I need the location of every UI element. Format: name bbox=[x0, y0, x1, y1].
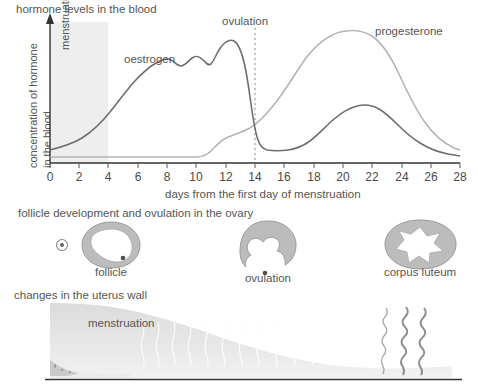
x-tick-label: 10 bbox=[189, 170, 202, 184]
uterus-menstruation-label: menstruation bbox=[88, 318, 154, 330]
x-tick-label: 24 bbox=[395, 170, 408, 184]
x-tick-label: 14 bbox=[248, 170, 261, 184]
figure-root: hormone levels in the blood concentratio… bbox=[0, 0, 478, 390]
corpus-luteum-diagram bbox=[385, 220, 456, 269]
x-tick-label: 26 bbox=[424, 170, 437, 184]
x-tick-label: 22 bbox=[365, 170, 378, 184]
x-axis-label: days from the first day of menstruation bbox=[165, 189, 361, 201]
x-tick-label: 2 bbox=[76, 170, 83, 184]
menstruation-band-label: menstruation bbox=[60, 0, 71, 50]
x-tick-label: 12 bbox=[219, 170, 232, 184]
endometrium-layer bbox=[50, 303, 452, 378]
ovulation-caption: ovulation bbox=[245, 272, 291, 284]
ovulation-marker-label: ovulation bbox=[222, 16, 268, 28]
x-axis-ticks bbox=[50, 163, 460, 168]
x-tick-label: 6 bbox=[135, 170, 142, 184]
y-axis-arrow-icon bbox=[46, 13, 54, 24]
progesterone-series-label: progesterone bbox=[375, 26, 443, 38]
x-tick-label: 16 bbox=[277, 170, 290, 184]
corpus-luteum-caption: corpus luteum bbox=[384, 266, 456, 278]
ovary-diagrams-svg bbox=[0, 218, 478, 298]
follicle-diagram bbox=[82, 222, 140, 268]
x-tick-label: 18 bbox=[307, 170, 320, 184]
x-tick-label: 28 bbox=[453, 170, 466, 184]
x-tick-label: 20 bbox=[336, 170, 349, 184]
follicle-egg-dot-icon bbox=[121, 256, 126, 261]
ovulation-diagram bbox=[240, 221, 296, 275]
uterus-wall-svg bbox=[0, 300, 478, 390]
follicle-caption: follicle bbox=[95, 266, 127, 278]
x-tick-label: 4 bbox=[105, 170, 112, 184]
x-tick-label: 8 bbox=[164, 170, 171, 184]
oestrogen-series-label: oestrogen bbox=[124, 54, 175, 66]
x-tick-label: 0 bbox=[47, 170, 54, 184]
egg-dot-icon bbox=[57, 240, 68, 251]
